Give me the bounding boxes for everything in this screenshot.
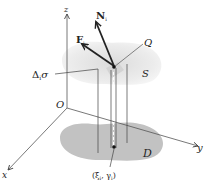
vector-f-label: Fi (76, 34, 85, 46)
surface-label: S (142, 68, 149, 79)
surface-integral-diagram: z y x O S D Q Δiσ Ni Fi (ξi, γi) (0, 0, 207, 193)
area-element-label: Δiσ (32, 69, 49, 81)
point-q-label: Q (144, 37, 152, 48)
point-base (112, 145, 116, 149)
base-point-label: (ξi, γi) (92, 171, 116, 181)
z-axis-label: z (63, 5, 69, 14)
x-axis-label: x (2, 170, 7, 180)
point-q (112, 65, 116, 69)
region-label: D (142, 147, 152, 160)
x-axis (8, 108, 67, 170)
y-axis-label: y (196, 142, 203, 153)
origin-label: O (56, 99, 64, 110)
vector-n-label: Ni (96, 10, 107, 22)
